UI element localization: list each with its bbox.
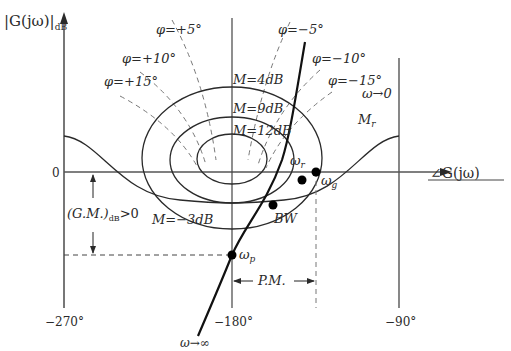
phi-plus-5-label: φ=+5° (156, 22, 202, 37)
m-minus-3db-label: M=−3dB (151, 212, 213, 227)
phase-contours (120, 20, 332, 168)
mr-label: Mr (357, 112, 376, 129)
phi-plus-15-label: φ=+15° (104, 74, 158, 89)
m-4db-label: M=4dB (232, 72, 283, 87)
omega-p-label: ωp (239, 247, 256, 264)
nichols-chart: |G(jω)|dB 0 ∠G(jω) −270° −180° −90° φ=+5… (0, 0, 511, 351)
x-axis-label: ∠G(jω) (430, 165, 480, 181)
m-9db-label: M=9dB (232, 101, 283, 116)
phi-minus-5-label: φ=−5° (278, 22, 324, 37)
omega-r-label: ωr (290, 153, 306, 170)
omega-g-label: ωg (321, 173, 338, 190)
y-axis-label: |G(jω)|dB (4, 12, 67, 32)
omega-to-zero-label: ω→0 (362, 86, 392, 101)
omega-r-point (298, 176, 307, 185)
gain-margin-label: (G.M.)dB>0 (67, 206, 139, 223)
phi-minus-10-label: φ=−10° (312, 51, 366, 66)
phase-margin-label: P.M. (257, 273, 286, 288)
bandwidth-point (269, 201, 278, 210)
bandwidth-label: BW (273, 211, 299, 226)
omega-to-infinity-label: ω→∞ (180, 336, 210, 350)
tick-minus-180: −180° (214, 315, 253, 329)
tick-minus-270: −270° (45, 315, 84, 329)
tick-minus-90: −90° (385, 315, 416, 329)
phi-plus-10-label: φ=+10° (122, 51, 176, 66)
zero-label: 0 (52, 166, 60, 180)
m-12db-label: M=12dB (232, 123, 292, 138)
omega-p-point (228, 251, 237, 260)
omega-g-point (312, 168, 321, 177)
